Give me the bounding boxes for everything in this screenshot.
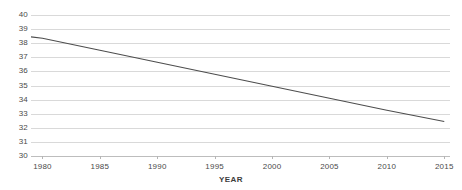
x-tick xyxy=(272,156,273,159)
y-tick-label: 31 xyxy=(2,138,28,146)
x-tick xyxy=(215,156,216,159)
x-tick-label: 1985 xyxy=(80,163,120,171)
x-tick-label: 2005 xyxy=(309,163,349,171)
plot-area xyxy=(31,15,450,156)
x-tick xyxy=(157,156,158,159)
x-tick xyxy=(444,156,445,159)
x-tick-label: 1995 xyxy=(195,163,235,171)
y-tick-label: 38 xyxy=(2,39,28,47)
series-line-trend xyxy=(31,15,450,156)
trend-polyline xyxy=(31,37,444,122)
y-tick-label: 36 xyxy=(2,67,28,75)
x-axis-title: YEAR xyxy=(0,176,462,184)
x-tick-label: 2010 xyxy=(367,163,407,171)
x-tick xyxy=(42,156,43,159)
x-axis-ticks xyxy=(31,156,450,160)
y-axis-tick-labels: 4039383736353433323130 xyxy=(0,15,28,156)
y-tick-label: 30 xyxy=(2,152,28,160)
x-tick xyxy=(329,156,330,159)
x-tick-label: 2000 xyxy=(252,163,292,171)
x-tick xyxy=(100,156,101,159)
y-tick-label: 34 xyxy=(2,96,28,104)
line-chart: 4039383736353433323130 19801985199019952… xyxy=(0,0,462,190)
y-tick-label: 40 xyxy=(2,11,28,19)
x-axis-tick-labels: 19801985199019952000200520102015 xyxy=(31,163,450,173)
y-tick-label: 32 xyxy=(2,124,28,132)
y-tick-label: 39 xyxy=(2,25,28,33)
x-tick-label: 2015 xyxy=(424,163,462,171)
y-tick-label: 37 xyxy=(2,53,28,61)
x-tick xyxy=(387,156,388,159)
y-tick-label: 33 xyxy=(2,110,28,118)
y-tick-label: 35 xyxy=(2,82,28,90)
x-tick-label: 1980 xyxy=(22,163,62,171)
x-tick-label: 1990 xyxy=(137,163,177,171)
